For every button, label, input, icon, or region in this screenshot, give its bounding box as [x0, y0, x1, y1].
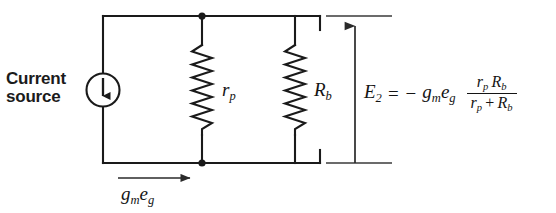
current-source-label: Current source — [6, 70, 92, 106]
denominator-plus-sign: + — [485, 94, 494, 111]
junction-bottom-dot — [198, 159, 205, 166]
equation-gm-symbol: g — [422, 81, 432, 102]
junction-top-dot — [198, 12, 205, 19]
equation-lhs: E2 — [364, 82, 382, 105]
equation-lhs-symbol: E — [364, 81, 376, 102]
current-source-label-line2: source — [6, 88, 92, 106]
numerator-rb-symbol: R — [491, 73, 501, 90]
gmeg-e-symbol: e — [140, 183, 148, 204]
gmeg-g-symbol: g — [121, 183, 131, 204]
circuit-diagram-figure: Current source rp Rb gmeg E2 = − gmeg rp… — [0, 0, 556, 213]
equation-lhs-subscript: 2 — [376, 91, 382, 105]
equation-fraction: rp Rb rp + Rb — [467, 74, 517, 113]
resistor-rp-subscript: p — [229, 89, 235, 103]
resistor-rb-label: Rb — [314, 80, 332, 103]
resistor-rp-zigzag — [192, 45, 212, 135]
gmeg-m-subscript: m — [131, 193, 140, 207]
resistor-rb-symbol: R — [314, 79, 326, 100]
equation-gm-subscript: m — [432, 91, 441, 105]
resistor-rb-zigzag — [285, 45, 305, 135]
resistor-rp-label: rp — [222, 80, 236, 103]
equation-fraction-denominator: rp + Rb — [467, 93, 517, 113]
gmeg-g-subscript: g — [148, 193, 154, 207]
denominator-rp-subscript: p — [477, 102, 482, 113]
equation-fraction-numerator: rp Rb — [473, 74, 511, 93]
numerator-rp-subscript: p — [483, 81, 488, 92]
equation-transconductance-term: gmeg — [422, 82, 455, 105]
numerator-rb-subscript: b — [501, 81, 506, 92]
current-source-label-line1: Current — [6, 70, 92, 88]
equation-minus-sign: − — [405, 84, 418, 104]
equation-eg-subscript: g — [449, 91, 455, 105]
output-voltage-equation: E2 = − gmeg rp Rb rp + Rb — [364, 74, 517, 113]
equation-equals-sign: = — [387, 84, 400, 104]
resistor-rb-subscript: b — [326, 89, 332, 103]
denominator-rb-subscript: b — [507, 102, 512, 113]
gmeg-current-label: gmeg — [121, 184, 154, 207]
denominator-rb-symbol: R — [498, 94, 508, 111]
